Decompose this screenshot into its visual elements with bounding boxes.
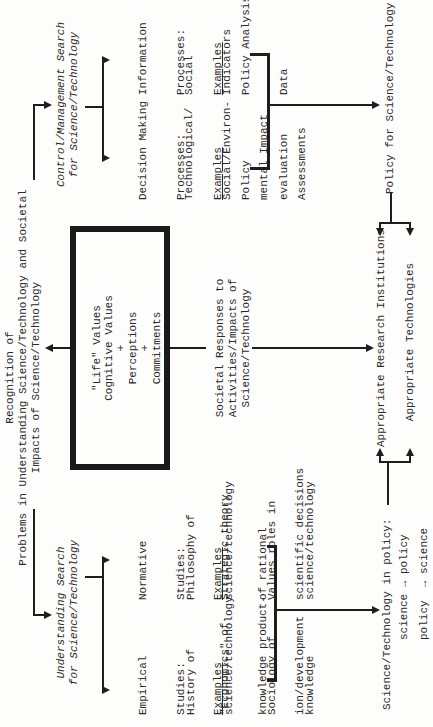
arrow-down-icon: [366, 344, 374, 352]
values-box-perceptions: Perceptions: [127, 226, 140, 470]
bracket-understanding-bottom: [274, 545, 277, 682]
appropriate-technologies: Appropriate Technologies: [404, 237, 417, 447]
connector-understanding-stem: [85, 576, 103, 578]
societal-responses-line-3: Science/Technology: [240, 266, 253, 430]
connector-policy-for-science: [390, 193, 392, 223]
fork-right-vertical: [379, 222, 410, 224]
fork-left-vertical: [379, 461, 410, 463]
policy-to-science: policy → science: [418, 528, 431, 640]
connector-societal-down: [252, 347, 367, 349]
connector-science-in-policy: [387, 462, 389, 505]
normative-example-values: Values roles in science/technology: [241, 481, 341, 600]
title-line-2: Problems in Understanding Science/Techno…: [17, 185, 30, 570]
bracket-control-right-tick: [250, 53, 269, 56]
empirical-example-sociology: Sociology of knowledge: [241, 636, 341, 715]
arrow-up-icon: [45, 344, 53, 352]
title-line-3: Impacts of Science/Technology: [30, 185, 43, 570]
values-box-plus-2: +: [139, 226, 152, 470]
connector-control-branch: [102, 59, 104, 158]
control-search-title: Control/Management Search: [55, 12, 68, 197]
bracket-control-left-tick: [250, 167, 269, 170]
values-box-plus-1: +: [115, 226, 128, 470]
arrow-left-icon: [376, 228, 384, 236]
arrow-down-icon: [372, 606, 380, 614]
values-box-commitments: Commitments: [151, 226, 164, 470]
values-box-life: "Life" Values: [91, 226, 104, 470]
values-box-cognitive: Cognitive Values: [103, 226, 116, 470]
control-search-subtitle: for Science/Technology: [68, 12, 81, 197]
appropriate-research-institutions: Appropriate Research Institutions: [375, 237, 388, 447]
understanding-search-subtitle: for Science/Technology: [68, 520, 81, 705]
bracket-control-bottom: [267, 53, 270, 170]
title-line-1: Recognition of: [4, 185, 17, 570]
connector-title-left: [33, 509, 35, 615]
understanding-search-title: Understanding Search: [55, 520, 68, 705]
connector-box-to-societal: [170, 347, 206, 349]
fork-left-bottom: [409, 455, 411, 463]
arrow-down-icon: [102, 154, 110, 162]
connector-box-to-title: [50, 347, 70, 349]
arrow-down-icon: [44, 101, 52, 109]
arrow-down-icon: [102, 686, 110, 694]
societal-responses-line-2: Activities/Impacts of: [227, 266, 240, 430]
connector-control-down: [270, 104, 373, 106]
arrow-left-icon: [406, 228, 414, 236]
arrow-down-icon: [44, 611, 52, 619]
bracket-understanding-right-tick: [267, 545, 276, 548]
bracket-understanding-left-tick: [267, 679, 276, 682]
diagram-canvas: Recognition of Problems in Understanding…: [0, 0, 433, 727]
science-in-policy-label: Science/Technology in policy:: [381, 519, 394, 710]
science-to-policy: science → policy: [398, 534, 411, 640]
arrow-down-icon: [372, 101, 380, 109]
arrow-down-icon: [102, 556, 110, 564]
fork-left-top: [379, 455, 381, 463]
connector-title-right: [33, 104, 35, 180]
connector-understanding-branch: [102, 559, 104, 690]
societal-responses-line-1: Societal Responses to: [214, 266, 227, 430]
arrow-down-icon: [102, 56, 110, 64]
arrow-right-icon: [406, 448, 414, 456]
information-example-policy-analysis: Policy Analysis Data: [215, 0, 315, 95]
connector-control-stem: [85, 106, 103, 108]
policy-for-science-label: Policy for Science/Technology: [384, 3, 397, 194]
connector-understanding-down: [277, 609, 373, 611]
arrow-right-icon: [376, 448, 384, 456]
